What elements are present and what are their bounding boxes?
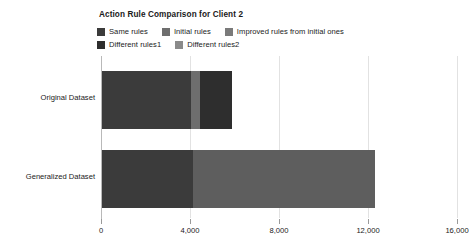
- legend-swatch-icon: [162, 28, 170, 36]
- x-axis-tick-mark: [368, 219, 369, 224]
- bar-segment[interactable]: [101, 150, 193, 208]
- legend-swatch-icon: [97, 28, 105, 36]
- bar-segment[interactable]: [191, 71, 200, 129]
- y-axis-line: [101, 56, 102, 222]
- x-axis-tick-mark: [279, 219, 280, 224]
- x-axis-tick-label: 12,000: [356, 226, 379, 235]
- legend-item[interactable]: Same rules: [97, 27, 148, 36]
- x-axis-tick-mark: [457, 219, 458, 224]
- legend-swatch-icon: [175, 41, 183, 49]
- legend-row: Same rulesInitial rulesImproved rules fr…: [97, 26, 437, 37]
- legend-item-label: Different rules2: [187, 40, 239, 49]
- plot-area: [101, 56, 457, 218]
- bar-segment[interactable]: [193, 150, 374, 208]
- x-axis-tick-label: 0: [99, 226, 103, 235]
- legend-item-label: Same rules: [109, 27, 148, 36]
- legend-item-label: Improved rules from initial ones: [237, 27, 344, 36]
- bar-segment[interactable]: [200, 71, 232, 129]
- legend-item[interactable]: Different rules2: [175, 40, 239, 49]
- x-axis-tick-label: 8,000: [269, 226, 288, 235]
- x-axis-tick-label: 16,000: [445, 226, 468, 235]
- chart-title: Action Rule Comparison for Client 2: [99, 10, 243, 19]
- bar-group[interactable]: [101, 150, 375, 208]
- gridline: [457, 56, 458, 218]
- x-axis-tick-mark: [101, 219, 102, 224]
- x-axis-tick-label: 4,000: [180, 226, 199, 235]
- legend-swatch-icon: [97, 41, 105, 49]
- legend-row: Different rules1Different rules2: [97, 39, 437, 50]
- y-axis-labels: Original DatasetGeneralized Dataset: [0, 0, 95, 247]
- y-axis-category-label: Generalized Dataset: [26, 172, 95, 181]
- chart-legend: Same rulesInitial rulesImproved rules fr…: [97, 26, 437, 52]
- legend-item[interactable]: Improved rules from initial ones: [225, 27, 344, 36]
- legend-item-label: Different rules1: [109, 40, 161, 49]
- x-axis-tick-mark: [190, 219, 191, 224]
- legend-swatch-icon: [225, 28, 233, 36]
- bar-group[interactable]: [101, 71, 232, 129]
- legend-item-label: Initial rules: [174, 27, 211, 36]
- legend-item[interactable]: Initial rules: [162, 27, 211, 36]
- bar-segment[interactable]: [101, 71, 191, 129]
- legend-item[interactable]: Different rules1: [97, 40, 161, 49]
- y-axis-category-label: Original Dataset: [41, 93, 95, 102]
